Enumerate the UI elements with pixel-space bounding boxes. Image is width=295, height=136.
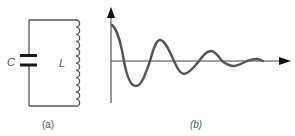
capacitor-icon: [20, 54, 37, 67]
damped-oscillation-plot: (b): [107, 7, 291, 130]
panel-a-caption: (a): [42, 119, 54, 130]
y-axis-arrow-icon: [107, 7, 115, 18]
inductor-coil-icon: [76, 20, 80, 106]
capacitor-label: C: [7, 56, 15, 68]
damped-oscillation-curve: [112, 25, 263, 86]
lc-circuit-diagram: C L (a): [7, 20, 80, 130]
panel-b-caption: (b): [190, 119, 202, 130]
x-axis-arrow-icon: [279, 57, 291, 65]
inductor-label: L: [59, 57, 65, 69]
figure: C L (a) (b): [0, 0, 295, 136]
